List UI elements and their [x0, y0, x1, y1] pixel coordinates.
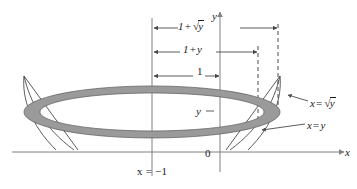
measure-label-unit: 1: [197, 66, 203, 77]
y-axis-label: y: [212, 11, 217, 22]
origin-label: 0: [205, 148, 211, 159]
outer-curve-radical: √y: [324, 97, 336, 109]
inner-curve-term: y: [321, 119, 326, 131]
inner-radius-lead: 1: [183, 43, 189, 55]
outer-radius-operator: +: [184, 20, 192, 32]
measure-label-outer-radius: 1+√y: [178, 20, 204, 32]
outer-curve-label: x=√y: [310, 97, 336, 109]
washer-method-figure: y x 0 x = −1 1 1+y 1+√y y x=√y x=y: [0, 0, 357, 189]
inner-radius-term: y: [197, 43, 202, 55]
y-height-label: y: [196, 106, 201, 117]
outer-radius-lead: 1: [178, 20, 184, 32]
measure-label-inner-radius: 1+y: [183, 44, 202, 55]
outer-radius-radical: √y: [192, 20, 204, 32]
measurement-arrows-group: [154, 28, 277, 76]
outer-curve-radicand: y: [330, 97, 336, 109]
inner-radius-operator: +: [189, 43, 197, 55]
outer-radius-radicand: y: [198, 20, 204, 32]
inner-curve-equals: =: [312, 119, 320, 131]
outer-curve-equals: =: [315, 97, 323, 109]
leader-line-outer-curve: [288, 95, 308, 101]
inner-curve-label: x=y: [307, 120, 326, 131]
x-axis-label: x: [345, 147, 350, 158]
axis-of-revolution-label: x = −1: [137, 166, 167, 177]
